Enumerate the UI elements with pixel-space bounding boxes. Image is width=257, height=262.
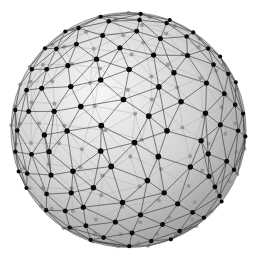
mesh-vertex-front: [63, 29, 67, 33]
mesh-vertex-front: [63, 209, 68, 214]
mesh-vertex-front: [168, 18, 172, 22]
mesh-vertex-front: [234, 80, 238, 84]
mesh-vertex-back: [29, 141, 33, 145]
mesh-vertex-front: [146, 113, 152, 119]
mesh-vertex-front: [48, 172, 53, 177]
mesh-vertex-front: [138, 212, 143, 217]
mesh-vertex-front: [70, 169, 75, 174]
mesh-vertex-front: [145, 178, 151, 184]
mesh-vertex-front: [158, 36, 163, 41]
mesh-vertex-front: [171, 70, 176, 75]
mesh-vertex-front: [44, 208, 48, 212]
mesh-vertex-back: [187, 184, 191, 188]
mesh-vertex-front: [84, 223, 89, 228]
mesh-vertex-front: [184, 34, 189, 39]
mesh-vertex-front: [211, 62, 216, 67]
mesh-vertex-front: [217, 194, 222, 199]
mesh-vertex-front: [169, 237, 173, 241]
mesh-vertex-front: [222, 91, 227, 96]
mesh-vertex-front: [175, 201, 180, 206]
mesh-vertex-front: [39, 86, 44, 91]
mesh-vertex-front: [43, 46, 47, 50]
mesh-vertex-front: [206, 151, 211, 156]
mesh-vertex-front: [226, 72, 230, 76]
mesh-vertex-front: [204, 81, 209, 86]
mesh-vertex-front: [54, 46, 59, 51]
mesh-vertex-back: [193, 200, 197, 204]
mesh-vertex-front: [137, 18, 142, 23]
mesh-vertex-back: [126, 88, 130, 92]
mesh-vertex-front: [243, 134, 247, 138]
mesh-vertex-front: [151, 52, 156, 57]
mesh-vertex-front: [101, 235, 106, 240]
mesh-vertex-back: [235, 150, 239, 154]
mesh-vertex-back: [164, 32, 168, 36]
mesh-vertex-front: [30, 67, 34, 71]
mesh-vertex-front: [44, 67, 49, 72]
sphere-mesh-canvas: [0, 0, 257, 262]
mesh-vertex-back: [197, 45, 201, 49]
mesh-vertex-front: [99, 15, 103, 19]
mesh-vertex-front: [126, 67, 132, 73]
mesh-vertex-front: [46, 149, 51, 154]
mesh-vertex-back: [99, 193, 103, 197]
mesh-vertex-front: [177, 229, 181, 233]
mesh-vertex-front: [178, 99, 184, 105]
mesh-vertex-back: [150, 97, 154, 101]
mesh-vertex-back: [121, 33, 125, 37]
mesh-vertex-back: [233, 121, 237, 125]
mesh-vertex-front: [139, 12, 143, 16]
mesh-vertex-front: [98, 148, 104, 154]
mesh-vertex-front: [76, 26, 80, 30]
mesh-vertex-front: [233, 102, 238, 107]
mesh-vertex-back: [133, 112, 137, 116]
mesh-vertex-front: [24, 88, 29, 93]
mesh-vertex-front: [132, 140, 138, 146]
mesh-vertex-front: [218, 55, 222, 59]
mesh-vertex-front: [13, 150, 17, 154]
mesh-vertex-front: [156, 84, 162, 90]
mesh-vertex-front: [88, 238, 92, 242]
mesh-vertex-front: [68, 84, 73, 89]
mesh-vertex-front: [160, 222, 165, 227]
mesh-vertex-front: [164, 21, 168, 25]
mesh-vertex-back: [94, 217, 98, 221]
mesh-vertex-back: [138, 220, 142, 224]
mesh-vertex-front: [29, 152, 34, 157]
mesh-vertex-front: [198, 138, 203, 143]
mesh-vertex-front: [213, 185, 218, 190]
mesh-vertex-front: [25, 171, 30, 176]
mesh-vertex-front: [190, 210, 195, 215]
mesh-vertex-front: [106, 19, 111, 24]
mesh-vertex-front: [224, 159, 229, 164]
mesh-vertex-back: [180, 126, 184, 130]
mesh-vertex-front: [91, 185, 96, 190]
mesh-vertex-front: [203, 111, 208, 116]
mesh-vertex-front: [94, 57, 99, 62]
mesh-vertex-front: [17, 169, 21, 173]
mesh-vertex-front: [206, 174, 211, 179]
mesh-vertex-front: [164, 128, 170, 134]
mesh-vertex-front: [185, 53, 190, 58]
mesh-vertex-front: [78, 104, 84, 110]
mesh-vertex-back: [128, 154, 132, 158]
mesh-vertex-front: [108, 164, 114, 170]
mesh-vertex-front: [191, 30, 195, 34]
mesh-vertex-front: [155, 154, 161, 160]
mesh-vertex-front: [232, 168, 237, 173]
mesh-vertex-front: [134, 29, 139, 34]
mesh-vertex-front: [113, 219, 118, 224]
mesh-vertex-front: [100, 33, 105, 38]
mesh-vertex-front: [236, 128, 241, 133]
mesh-vertex-back: [149, 74, 153, 78]
mesh-vertex-front: [13, 108, 17, 112]
mesh-vertex-front: [69, 190, 74, 195]
mesh-vertex-front: [42, 132, 47, 137]
mesh-vertex-front: [218, 122, 223, 127]
mesh-vertex-front: [220, 200, 224, 204]
mesh-vertex-front: [127, 244, 131, 248]
mesh-vertex-back: [53, 101, 57, 105]
mesh-vertex-front: [98, 77, 104, 83]
mesh-vertex-front: [161, 190, 166, 195]
mesh-vertex-front: [64, 128, 70, 134]
